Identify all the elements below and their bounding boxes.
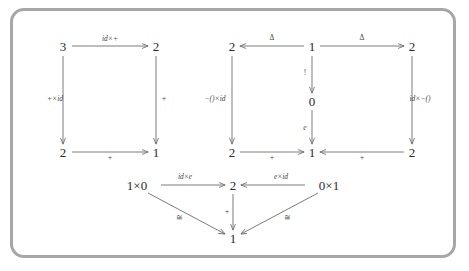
arrow-label-bottom-center: + bbox=[225, 208, 230, 216]
node-mid-top-left: 2 bbox=[229, 40, 236, 53]
node-left-bottom-right: 1 bbox=[153, 146, 160, 159]
arrow-bot-diag-left bbox=[148, 193, 225, 234]
arrow-label-left-left: +×id bbox=[47, 95, 63, 103]
arrow-label-left-top: id×+ bbox=[102, 35, 118, 43]
arrow-label-mid-center-up: ! bbox=[304, 69, 307, 77]
arrow-label-mid-bottom-left: + bbox=[270, 154, 275, 162]
arrow-label-bottom-top-right: e×id bbox=[274, 173, 288, 181]
arrow-label-mid-right: id×−() bbox=[410, 95, 431, 103]
arrow-label-mid-top-right: Δ bbox=[360, 34, 365, 42]
arrow-bot-diag-right bbox=[241, 193, 318, 234]
arrow-label-mid-left: −()×id bbox=[205, 95, 226, 103]
arrow-label-bottom-top-left: id×e bbox=[178, 173, 192, 181]
arrow-label-bottom-diag-left: ≅ bbox=[176, 214, 183, 222]
node-bottom-center: 2 bbox=[230, 179, 237, 192]
node-left-bottom-left: 2 bbox=[60, 146, 67, 159]
node-mid-bottom-center: 1 bbox=[309, 146, 316, 159]
arrow-label-left-bottom: + bbox=[108, 154, 113, 162]
arrow-label-mid-center-down: e bbox=[303, 124, 306, 132]
node-mid-bottom-right: 2 bbox=[409, 146, 416, 159]
node-bottom-apex: 1 bbox=[230, 232, 237, 245]
node-bottom-left: 1×0 bbox=[127, 179, 147, 192]
node-left-top-right: 2 bbox=[153, 40, 160, 53]
arrow-label-mid-bottom-right: + bbox=[360, 154, 365, 162]
node-mid-top-center: 1 bbox=[309, 40, 316, 53]
arrow-label-bottom-diag-right: ≅ bbox=[284, 214, 291, 222]
arrow-label-left-right: + bbox=[162, 95, 167, 103]
node-mid-bottom-left: 2 bbox=[229, 146, 236, 159]
arrow-label-mid-top-left: Δ bbox=[270, 34, 275, 42]
node-mid-top-right: 2 bbox=[409, 40, 416, 53]
node-mid-middle: 0 bbox=[309, 95, 316, 108]
node-left-top-left: 3 bbox=[60, 40, 67, 53]
node-bottom-right: 0×1 bbox=[319, 179, 339, 192]
